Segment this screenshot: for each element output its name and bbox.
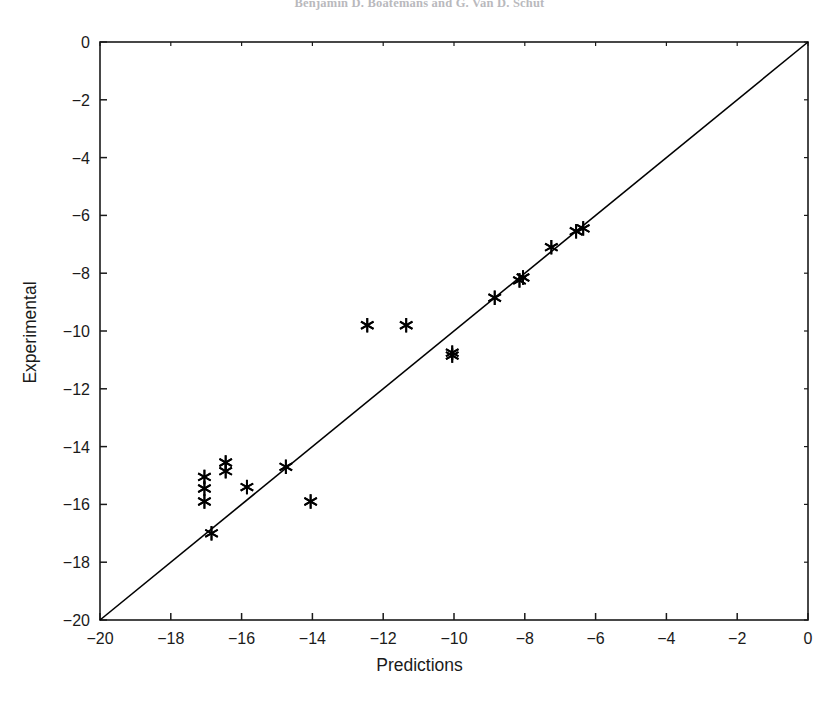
figure-page: Benjamin D. Boatemans and G. Van D. Schu… — [0, 0, 839, 701]
x-tick-label: −2 — [728, 630, 746, 647]
plot-canvas: −20−18−16−14−12−10−8−6−4−20−20−18−16−14−… — [0, 0, 839, 701]
y-tick-label: −12 — [63, 381, 90, 398]
y-tick-label: −18 — [63, 554, 90, 571]
x-tick-label: −12 — [370, 630, 397, 647]
x-tick-label: −4 — [657, 630, 675, 647]
data-point-marker — [241, 480, 253, 494]
y-tick-label: −2 — [72, 92, 90, 109]
x-tick-label: −6 — [586, 630, 604, 647]
data-point-marker — [304, 494, 316, 508]
x-tick-label: −20 — [86, 630, 113, 647]
x-tick-label: −18 — [157, 630, 184, 647]
x-tick-label: −16 — [228, 630, 255, 647]
x-tick-label: −14 — [299, 630, 326, 647]
y-tick-label: 0 — [81, 34, 90, 51]
y-tick-label: −4 — [72, 150, 90, 167]
x-axis-title: Predictions — [0, 655, 839, 676]
data-point-marker — [400, 318, 412, 332]
y-tick-label: −10 — [63, 323, 90, 340]
y-tick-label: −14 — [63, 439, 90, 456]
data-point-marker — [198, 481, 210, 495]
y-tick-label: −6 — [72, 207, 90, 224]
data-point-marker — [198, 494, 210, 508]
identity-reference-line — [100, 42, 808, 620]
data-point-marker — [219, 464, 231, 478]
data-point-marker — [488, 291, 500, 305]
y-tick-label: −16 — [63, 496, 90, 513]
y-tick-label: −8 — [72, 265, 90, 282]
scatter-plot-figure: −20−18−16−14−12−10−8−6−4−20−20−18−16−14−… — [0, 0, 839, 701]
y-tick-label: −20 — [63, 612, 90, 629]
x-tick-label: 0 — [804, 630, 813, 647]
x-tick-label: −10 — [440, 630, 467, 647]
x-tick-label: −8 — [516, 630, 534, 647]
y-axis-title: Experimental — [20, 233, 41, 433]
data-point-marker — [361, 318, 373, 332]
